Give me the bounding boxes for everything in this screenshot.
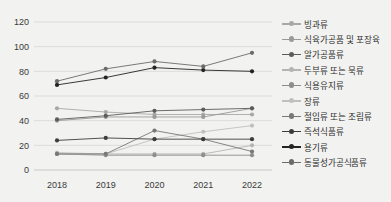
legend-marker-icon <box>282 34 301 45</box>
legend-item[interactable]: 빙과류 <box>282 16 391 31</box>
x-axis-tick-label: 2021 <box>193 180 213 190</box>
series-data-point <box>152 128 156 132</box>
line-chart-plot-area: 020406080100120 20182019202020212022 <box>0 0 280 202</box>
legend-item[interactable]: 용기류 <box>282 139 391 154</box>
legend-marker-icon <box>282 111 301 122</box>
chart-legend: 빙과류식육가공품 및 포장육알가공품류두부류 또는 묵류식용유지류장류절임류 또… <box>282 16 391 170</box>
chart-series <box>55 66 254 87</box>
legend-item-label: 빙과류 <box>304 18 328 30</box>
series-data-point <box>152 66 156 70</box>
legend-marker-icon <box>282 157 301 168</box>
series-data-point <box>250 124 254 128</box>
series-data-point <box>250 153 254 157</box>
legend-item-label: 식육가공품 및 포장육 <box>304 33 380 45</box>
series-data-point <box>104 152 108 156</box>
series-data-point <box>152 137 156 141</box>
series-data-point <box>250 149 254 153</box>
series-data-point <box>250 137 254 141</box>
series-data-point <box>152 59 156 63</box>
legend-marker-icon <box>282 141 301 152</box>
legend-item[interactable]: 식용유지류 <box>282 78 391 93</box>
series-data-point <box>152 115 156 119</box>
y-axis-tick-labels: 020406080100120 <box>14 17 29 175</box>
series-data-point <box>201 153 205 157</box>
legend-marker-icon <box>282 95 301 106</box>
y-axis-tick-label: 20 <box>19 141 29 151</box>
series-data-point <box>201 64 205 68</box>
series-data-point <box>104 67 108 71</box>
series-data-point <box>201 68 205 72</box>
legend-item-label: 동물성가공식품류 <box>304 156 367 168</box>
y-axis-tick-label: 80 <box>19 67 29 77</box>
y-axis-tick-label: 40 <box>19 116 29 126</box>
x-axis-tick-label: 2018 <box>47 180 67 190</box>
series-data-point <box>104 114 108 118</box>
series-data-point <box>201 107 205 111</box>
legend-item[interactable]: 장류 <box>282 93 391 108</box>
legend-marker-icon <box>282 49 301 60</box>
legend-item-label: 알가공품류 <box>304 48 344 60</box>
series-data-point <box>55 152 59 156</box>
legend-item[interactable]: 두부류 또는 묵류 <box>282 62 391 77</box>
legend-item[interactable]: 알가공품류 <box>282 47 391 62</box>
y-axis-tick-label: 60 <box>19 91 29 101</box>
series-data-point <box>250 51 254 55</box>
chart-series <box>55 136 254 143</box>
legend-item-label: 장류 <box>304 95 320 107</box>
series-data-point <box>201 130 205 134</box>
legend-item[interactable]: 즉석식품류 <box>282 124 391 139</box>
series-data-point <box>152 153 156 157</box>
chart-series-layer <box>55 51 254 158</box>
y-axis-tick-label: 100 <box>14 42 29 52</box>
series-data-point <box>55 83 59 87</box>
y-axis-tick-label: 0 <box>24 165 29 175</box>
x-axis-tick-label: 2020 <box>144 180 164 190</box>
series-data-point <box>201 137 205 141</box>
series-data-point <box>104 136 108 140</box>
legend-item-label: 절임류 또는 조림류 <box>304 110 372 122</box>
legend-item-label: 용기류 <box>304 141 328 153</box>
series-data-point <box>55 106 59 110</box>
legend-marker-icon <box>282 64 301 75</box>
x-axis-tick-label: 2022 <box>242 180 262 190</box>
chart-svg: 020406080100120 20182019202020212022 <box>0 0 280 202</box>
series-data-point <box>55 138 59 142</box>
legend-item[interactable]: 절임류 또는 조림류 <box>282 108 391 123</box>
legend-marker-icon <box>282 18 301 29</box>
y-axis-tick-label: 120 <box>14 17 29 27</box>
series-data-point <box>55 79 59 83</box>
legend-item-label: 식용유지류 <box>304 79 344 91</box>
legend-marker-icon <box>282 80 301 91</box>
series-data-point <box>250 112 254 116</box>
legend-marker-icon <box>282 126 301 137</box>
legend-item[interactable]: 식육가공품 및 포장육 <box>282 31 391 46</box>
legend-item-label: 두부류 또는 묵류 <box>304 64 364 76</box>
x-axis-tick-label: 2019 <box>96 180 116 190</box>
chart-page: 020406080100120 20182019202020212022 빙과류… <box>0 0 391 202</box>
series-data-point <box>250 69 254 73</box>
series-data-point <box>250 106 254 110</box>
series-line <box>57 68 252 85</box>
series-data-point <box>55 117 59 121</box>
series-data-point <box>250 143 254 147</box>
series-data-point <box>104 110 108 114</box>
series-data-point <box>152 109 156 113</box>
x-axis-tick-labels: 20182019202020212022 <box>47 180 262 190</box>
series-data-point <box>104 75 108 79</box>
legend-item[interactable]: 동물성가공식품류 <box>282 155 391 170</box>
legend-item-label: 즉석식품류 <box>304 125 344 137</box>
series-data-point <box>201 115 205 119</box>
